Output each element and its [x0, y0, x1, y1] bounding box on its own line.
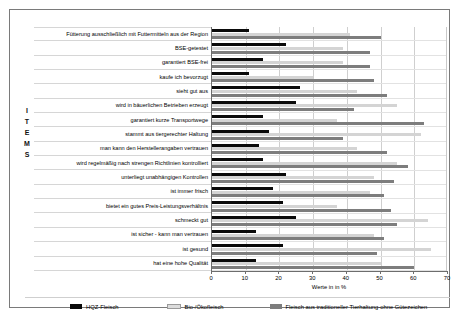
- y-axis-title: ITEMS: [20, 105, 34, 160]
- category-label: man kann den Herstellerangaben vertrauen: [100, 145, 208, 151]
- category-label: sieht gut aus: [176, 88, 208, 94]
- bar: [212, 65, 370, 68]
- bar: [212, 122, 424, 125]
- bar: [212, 90, 357, 93]
- bar: [212, 119, 337, 122]
- bar: [212, 237, 384, 240]
- category-label: wird regelmäßig nach strengen Richtlinie…: [76, 160, 208, 166]
- x-tick-label: 0: [209, 275, 212, 281]
- y-axis-title-letter: T: [20, 116, 34, 127]
- legend-swatch-icon: [167, 304, 181, 309]
- bar: [212, 205, 337, 208]
- bar: [212, 76, 313, 79]
- bar-group: [212, 257, 446, 271]
- x-axis-line: [211, 271, 447, 272]
- x-tick: [380, 271, 381, 274]
- legend-label: Fleisch aus traditioneller Tierhaltung-o…: [286, 304, 428, 310]
- bar: [212, 144, 259, 147]
- x-tick-label: 10: [241, 275, 247, 281]
- category-row: unterliegt unabhängigen Kontrollen: [34, 170, 211, 184]
- bar: [212, 201, 283, 204]
- category-row: garantiert BSE-frei: [34, 56, 211, 70]
- category-label: ist sicher - kann man vertrauen: [131, 231, 208, 237]
- x-tick-label: 20: [275, 275, 281, 281]
- x-tick: [211, 271, 212, 274]
- bar: [212, 58, 263, 61]
- bar: [212, 244, 283, 247]
- bar: [212, 165, 408, 168]
- y-axis-title-letter: M: [20, 138, 34, 149]
- bar-group: [212, 70, 446, 84]
- bar: [212, 29, 249, 32]
- category-label: ist immer frisch: [170, 188, 208, 194]
- category-row: wird regelmäßig nach strengen Richtlinie…: [34, 156, 211, 170]
- bar-group: [212, 142, 446, 156]
- bar: [212, 216, 296, 219]
- bar: [212, 194, 384, 197]
- bar-group: [212, 99, 446, 113]
- bar: [212, 230, 256, 233]
- x-tick: [346, 271, 347, 274]
- x-tick-label: 30: [309, 275, 315, 281]
- bar: [212, 47, 343, 50]
- bar: [212, 248, 431, 251]
- plot-area: [211, 27, 447, 271]
- category-row: kaufe ich bevorzugt: [34, 70, 211, 84]
- bar-group: [212, 84, 446, 98]
- category-label: stammt aus tiergerechter Haltung: [125, 131, 208, 137]
- category-label-column: Fütterung ausschließlich mit Futtermitte…: [34, 27, 211, 271]
- bar: [212, 191, 370, 194]
- bar: [212, 79, 374, 82]
- category-label: wird in bäuerlichen Betrieben erzeugt: [116, 102, 208, 108]
- bar-group: [212, 127, 446, 141]
- legend-item-hqz: HQZ-Fleisch: [70, 304, 119, 310]
- y-axis-title-letter: E: [20, 127, 34, 138]
- category-label: hat eine hohe Qualität: [153, 260, 208, 266]
- bar: [212, 187, 273, 190]
- x-tick-label: 70: [444, 275, 450, 281]
- x-axis-label: Werte in in %: [211, 284, 447, 290]
- bar-group: [212, 228, 446, 242]
- legend-item-bio: Bio-/Ökofleisch: [167, 304, 224, 310]
- category-label: kaufe ich bevorzugt: [159, 74, 208, 80]
- legend-swatch-icon: [70, 304, 82, 309]
- chart-frame: ITEMS Fütterung ausschließlich mit Futte…: [9, 9, 450, 308]
- x-tick: [312, 271, 313, 274]
- category-label: schmeckt gut: [175, 217, 208, 223]
- bar: [212, 180, 394, 183]
- bar: [212, 33, 350, 36]
- category-label: Fütterung ausschließlich mit Futtermitte…: [66, 31, 208, 37]
- category-row: ist gesund: [34, 242, 211, 256]
- bar: [212, 209, 391, 212]
- bar: [212, 162, 397, 165]
- bar: [212, 176, 374, 179]
- x-tick: [447, 271, 448, 274]
- bar-group: [212, 27, 446, 41]
- bar: [212, 104, 397, 107]
- y-axis-title-letter: S: [20, 149, 34, 160]
- legend-label: HQZ-Fleisch: [86, 304, 119, 310]
- bar: [212, 108, 354, 111]
- category-row: ist immer frisch: [34, 185, 211, 199]
- category-row: Fütterung ausschließlich mit Futtermitte…: [34, 27, 211, 41]
- bar-group: [212, 113, 446, 127]
- category-label: BSE-getestet: [175, 45, 208, 51]
- bar: [212, 173, 286, 176]
- category-row: wird in bäuerlichen Betrieben erzeugt: [34, 99, 211, 113]
- bar-group: [212, 199, 446, 213]
- bar: [212, 266, 414, 269]
- bar: [212, 223, 397, 226]
- bar: [212, 147, 357, 150]
- bar: [212, 72, 249, 75]
- bar-group: [212, 156, 446, 170]
- x-tick: [245, 271, 246, 274]
- bar: [212, 151, 387, 154]
- category-row: bietet ein gutes Preis-Leistungsverhältn…: [34, 199, 211, 213]
- category-label: garantiert BSE-frei: [162, 59, 208, 65]
- category-row: man kann den Herstellerangaben vertrauen: [34, 142, 211, 156]
- x-tick-label: 50: [376, 275, 382, 281]
- bar-group: [212, 56, 446, 70]
- bar: [212, 262, 381, 265]
- legend-swatch-icon: [270, 304, 282, 309]
- category-row: ist sicher - kann man vertrauen: [34, 228, 211, 242]
